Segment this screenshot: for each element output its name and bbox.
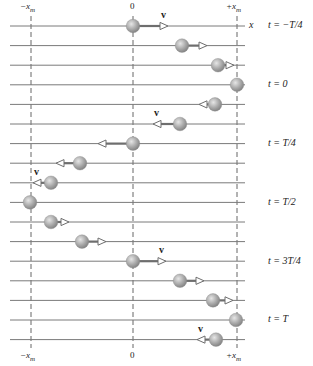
time-label-full-period: t = T (268, 313, 288, 324)
ball-icon (44, 215, 58, 229)
bottom-label-minus-xm: −xm (20, 350, 35, 363)
ball-icon (209, 333, 223, 347)
ball-icon (175, 39, 189, 53)
oscillation-diagram-svg (0, 0, 313, 366)
top-label-minus-xm: −xm (20, 1, 35, 14)
velocity-label: v (154, 107, 159, 118)
velocity-arrowhead-icon (61, 218, 69, 225)
top-label-plus-xm: +xm (226, 1, 241, 14)
velocity-arrowhead-icon (98, 140, 106, 147)
ball-icon (44, 176, 58, 190)
bottom-label-plus-xm: +xm (226, 350, 241, 363)
ball-icon (23, 196, 37, 210)
velocity-arrowhead-icon (196, 277, 204, 284)
velocity-label: v (159, 244, 164, 255)
time-label-three-quarter: t = 3T/4 (268, 255, 301, 266)
axis-label-x: x (249, 19, 253, 30)
velocity-arrowhead-icon (199, 42, 207, 49)
velocity-arrowhead-icon (225, 297, 233, 304)
ball-icon (173, 117, 187, 131)
top-label-zero: 0 (130, 1, 135, 11)
dashed-reference-lines (31, 16, 237, 348)
bottom-label-zero: 0 (130, 350, 135, 360)
time-label-zero: t = 0 (268, 78, 288, 89)
shm-diagram: −xm 0 +xm x −xm 0 +xm t = −T/4 t = 0 t =… (0, 0, 313, 366)
velocity-label: v (198, 323, 203, 334)
ball-icon (75, 235, 89, 249)
velocity-arrowhead-icon (199, 101, 207, 108)
ball-icon (230, 78, 244, 92)
time-label-half: t = T/2 (268, 196, 296, 207)
ball-icon (126, 19, 140, 33)
velocity-label: v (34, 166, 39, 177)
velocity-arrowhead-icon (160, 22, 168, 29)
ball-icon (73, 156, 87, 170)
velocity-arrowhead-icon (158, 258, 166, 265)
velocity-arrowhead-icon (98, 238, 106, 245)
time-label-minus-quarter: t = −T/4 (268, 19, 303, 30)
ball-icon (126, 137, 140, 151)
velocity-arrowhead-icon (197, 336, 205, 343)
ball-icon (126, 254, 140, 268)
ball-icon (229, 313, 243, 327)
velocity-arrowhead-icon (226, 62, 234, 69)
velocity-arrowhead-icon (33, 179, 41, 186)
velocity-label: v (161, 9, 166, 20)
ball-icon (208, 98, 222, 112)
ball-icon (206, 294, 220, 308)
velocity-arrowhead-icon (56, 160, 64, 167)
ball-icon (211, 58, 225, 72)
time-label-quarter: t = T/4 (268, 137, 296, 148)
velocity-arrowhead-icon (153, 120, 161, 127)
ball-icon (173, 274, 187, 288)
